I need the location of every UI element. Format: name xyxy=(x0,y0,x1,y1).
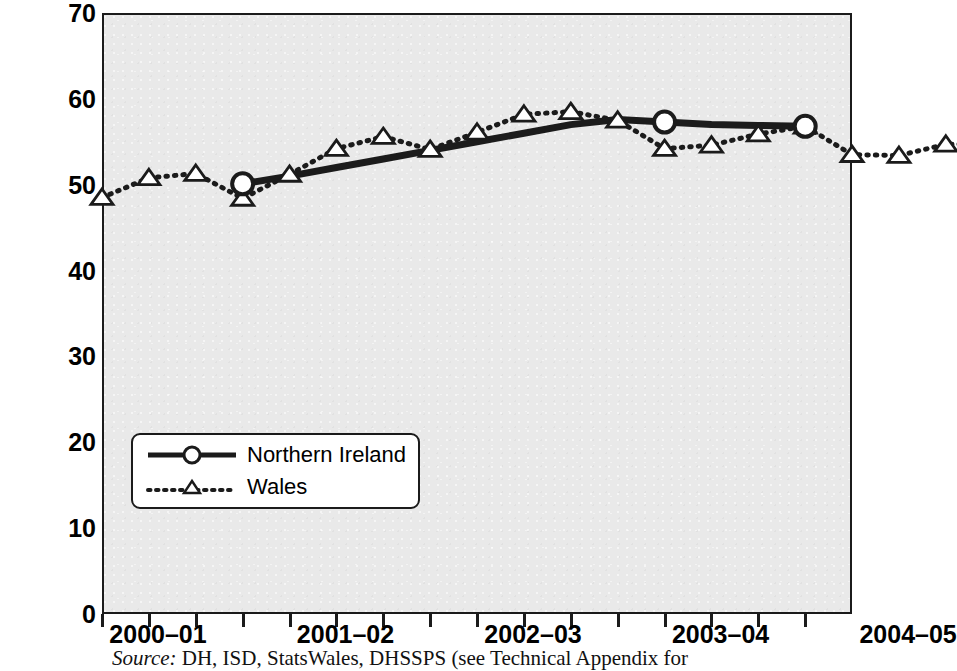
y-axis-tick-label: 30 xyxy=(40,342,96,371)
x-axis-tick-label: 2001–02 xyxy=(297,620,394,649)
northern-ireland-data-point-marker xyxy=(232,173,253,194)
x-axis-tick-label: 2004–05 xyxy=(859,620,956,649)
source-text: DH, ISD, StatsWales, DHSSPS (see Technic… xyxy=(182,646,688,670)
northern-ireland-data-point-marker xyxy=(654,112,675,133)
wales-data-point-marker xyxy=(700,137,722,152)
y-axis-tick-label: 40 xyxy=(40,256,96,285)
y-axis-tick-label: 20 xyxy=(40,428,96,457)
x-axis-tick-mark xyxy=(617,614,620,627)
y-axis-tick-label: 50 xyxy=(40,170,96,199)
x-axis-tick-mark xyxy=(476,614,479,627)
wales-data-point-marker xyxy=(466,124,488,139)
northern-ireland-data-point-marker xyxy=(795,116,816,137)
wales-data-point-marker xyxy=(185,165,207,180)
x-axis-tick-label: 2002–03 xyxy=(484,620,581,649)
source-prefix: Source: xyxy=(112,646,177,670)
x-axis-tick-label: 2000–01 xyxy=(109,620,206,649)
data-series-layer xyxy=(102,13,852,614)
triangle-marker-icon xyxy=(145,474,239,500)
x-axis-tick-mark xyxy=(429,614,432,627)
circle-marker-icon xyxy=(145,442,239,468)
chart-legend: Northern Ireland Wales xyxy=(131,433,420,509)
x-axis-tick-mark xyxy=(101,614,104,627)
y-axis-tick-label: 60 xyxy=(40,84,96,113)
y-axis-ticks: 010203040506070 xyxy=(0,0,96,668)
y-axis-tick-label: 0 xyxy=(40,600,96,629)
legend-label-northern-ireland: Northern Ireland xyxy=(247,442,406,468)
y-axis-tick-label: 70 xyxy=(40,0,96,28)
x-axis-tick-mark xyxy=(289,614,292,627)
wales-data-point-marker xyxy=(372,128,394,143)
legend-item-northern-ireland: Northern Ireland xyxy=(145,440,406,470)
y-axis-tick-label: 10 xyxy=(40,514,96,543)
x-axis-tick-label: 2003–04 xyxy=(672,620,769,649)
x-axis-tick-mark xyxy=(242,614,245,627)
legend-item-wales: Wales xyxy=(145,472,307,502)
x-axis-tick-mark xyxy=(804,614,807,627)
source-caption: Source: DH, ISD, StatsWales, DHSSPS (see… xyxy=(112,646,866,671)
legend-label-wales: Wales xyxy=(247,474,307,500)
x-axis-tick-mark xyxy=(664,614,667,627)
